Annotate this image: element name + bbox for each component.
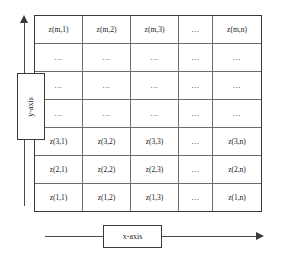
matrix-cell: ... <box>83 100 131 127</box>
matrix-cell: ... <box>35 44 83 71</box>
y-axis-label-box: y-axis <box>17 73 45 140</box>
matrix-cell: ... <box>131 100 179 127</box>
y-axis-label: y-axis <box>27 97 35 117</box>
matrix-row: ... ... ... ... ... <box>35 72 261 100</box>
matrix-cell: ... <box>213 100 261 127</box>
matrix-cell: ... <box>179 16 213 43</box>
matrix-cell: z(2,n) <box>213 156 261 183</box>
matrix-cell: ... <box>131 72 179 99</box>
matrix-cell: ... <box>83 72 131 99</box>
matrix-cell: z(2,1) <box>35 156 83 183</box>
x-axis-arrowhead-icon <box>256 232 264 240</box>
matrix-cell: ... <box>83 44 131 71</box>
matrix-cell: z(m,1) <box>35 16 83 43</box>
matrix-grid: z(m,1) z(m,2) z(m,3) ... z(m,n) ... ... … <box>34 15 262 212</box>
matrix-cell: ... <box>179 156 213 183</box>
matrix-axis-diagram: z(m,1) z(m,2) z(m,3) ... z(m,n) ... ... … <box>0 0 284 260</box>
matrix-cell: z(m,2) <box>83 16 131 43</box>
matrix-row: z(1,1) z(1,2) z(1,3) ... z(1,n) <box>35 184 261 211</box>
matrix-cell: ... <box>179 72 213 99</box>
x-axis-label-box: x-axis <box>103 225 162 248</box>
x-axis-label: x-axis <box>123 233 143 241</box>
y-axis-arrowhead-icon <box>20 15 28 23</box>
matrix-row: z(2,1) z(2,2) z(2,3) ... z(2,n) <box>35 156 261 184</box>
matrix-row: z(m,1) z(m,2) z(m,3) ... z(m,n) <box>35 16 261 44</box>
matrix-cell: z(1,n) <box>213 184 261 211</box>
matrix-cell: z(3,3) <box>131 128 179 155</box>
matrix-cell: ... <box>213 44 261 71</box>
matrix-cell: z(1,2) <box>83 184 131 211</box>
matrix-cell: ... <box>179 184 213 211</box>
matrix-cell: z(m,3) <box>131 16 179 43</box>
matrix-cell: ... <box>179 44 213 71</box>
matrix-row: ... ... ... ... ... <box>35 100 261 128</box>
matrix-cell: z(3,2) <box>83 128 131 155</box>
matrix-cell: ... <box>179 128 213 155</box>
matrix-cell: z(3,n) <box>213 128 261 155</box>
matrix-cell: ... <box>213 72 261 99</box>
matrix-cell: z(2,2) <box>83 156 131 183</box>
matrix-cell: z(2,3) <box>131 156 179 183</box>
matrix-cell: ... <box>179 100 213 127</box>
matrix-cell: ... <box>131 44 179 71</box>
matrix-row: ... ... ... ... ... <box>35 44 261 72</box>
matrix-cell: z(1,3) <box>131 184 179 211</box>
matrix-cell: z(1,1) <box>35 184 83 211</box>
matrix-cell: z(m,n) <box>213 16 261 43</box>
matrix-row: z(3,1) z(3,2) z(3,3) ... z(3,n) <box>35 128 261 156</box>
